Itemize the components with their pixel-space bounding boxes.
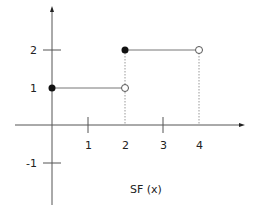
open-dot-2-1: [122, 85, 129, 92]
x-label-4: 4: [196, 139, 203, 152]
y-label-minus1: -1: [26, 157, 37, 170]
y-label-1: 1: [30, 82, 37, 95]
closed-dot-0-1: [49, 85, 56, 92]
y-label-2: 2: [30, 44, 37, 57]
open-dot-4-2: [196, 47, 203, 54]
x-axis-title: SF (x): [130, 183, 162, 196]
x-label-3: 3: [160, 139, 167, 152]
x-axis-arrow-icon: [239, 123, 245, 127]
step-function-chart: 2 1 -1 1 2 3 4 SF (x): [0, 0, 254, 214]
closed-dot-2-2: [122, 47, 129, 54]
x-label-1: 1: [85, 139, 92, 152]
x-label-2: 2: [122, 139, 129, 152]
y-axis-arrow-icon: [50, 6, 54, 12]
